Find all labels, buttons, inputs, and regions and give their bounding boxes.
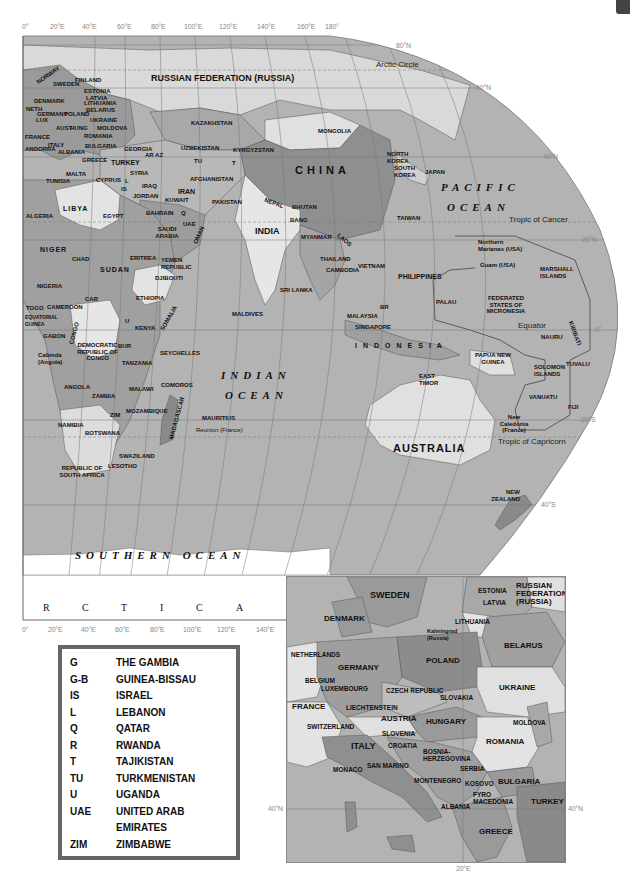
inset-country-label: NETHERLANDS	[291, 651, 340, 658]
country-label: UAE	[183, 221, 196, 228]
country-label: ALGERIA	[26, 213, 53, 220]
country-label: Reunion (France)	[196, 427, 243, 434]
legend-code: U	[70, 787, 116, 804]
legend-country-name: ZIMBABWE	[116, 837, 236, 854]
legend-code: UAE	[70, 804, 116, 837]
country-label: IS	[121, 186, 127, 193]
legend-row: UUGANDA	[70, 787, 236, 804]
country-label: NAMIBIA	[58, 422, 84, 429]
country-label: VANUATU	[529, 394, 557, 401]
country-label: EQUATORIAL GUINEA	[25, 314, 59, 327]
pacific-ocean-label: PACIFIC	[441, 181, 520, 193]
legend-code: T	[70, 754, 116, 771]
country-label: New Caledonia (France)	[497, 414, 531, 434]
country-label: ETHIOPIA	[136, 295, 164, 302]
inset-country-label: ITALY	[351, 741, 376, 751]
country-label: TUNISIA	[46, 178, 70, 185]
lon-tick-top: 0°	[22, 23, 28, 30]
inset-country-label: Kaliningrad (Russia)	[427, 628, 461, 642]
antarctica-letter: A	[236, 602, 243, 613]
inset-country-label: ROMANIA	[486, 737, 524, 746]
legend-code: TU	[70, 771, 116, 788]
inset-country-label: LIECHTENSTEIN	[346, 704, 398, 711]
country-label: VIETNAM	[358, 263, 385, 270]
legend-row: GTHE GAMBIA	[70, 655, 236, 672]
legend-country-name: TURKMENISTAN	[116, 771, 236, 788]
country-label: COMOROS	[161, 382, 193, 389]
lat-tick: 80°N	[396, 42, 411, 49]
legend-country-name: THE GAMBIA	[116, 655, 236, 672]
country-label: KAZAKHSTAN	[191, 120, 232, 127]
country-label: SWAZILAND	[119, 453, 155, 460]
southern-ocean-label: SOUTHERN OCEAN	[75, 549, 246, 561]
arctic-circle-label: Arctic Circle	[376, 60, 419, 69]
inset-lat-tick-left: 40°N	[268, 805, 283, 812]
country-label: BANG	[290, 217, 308, 224]
country-label: ERITREA	[130, 255, 156, 262]
inset-country-label: LITHUANIA	[455, 618, 490, 625]
lon-tick-top: 140°E	[257, 23, 275, 30]
legend-country-name: ISRAEL	[116, 688, 236, 705]
inset-land-ukraine	[477, 667, 565, 717]
inset-country-label: TURKEY	[531, 797, 564, 806]
inset-country-label: SWITZERLAND	[307, 723, 354, 730]
legend-row: G-BGUINEA-BISSAU	[70, 672, 236, 689]
lon-tick-bottom: 120°E	[217, 626, 235, 633]
inset-country-label: FYRO MACEDONIA	[473, 791, 513, 805]
inset-country-label: SERBIA	[460, 765, 485, 772]
country-label: NIGERIA	[37, 283, 62, 290]
legend-country-name: RWANDA	[116, 738, 236, 755]
inset-country-label: AUSTRIA	[381, 714, 417, 723]
inset-country-label: GERMANY	[338, 663, 379, 672]
legend-row: UAEUNITED ARAB EMIRATES	[70, 804, 236, 837]
country-label: TURKEY	[111, 159, 140, 167]
inset-country-label: BULGARIA	[498, 777, 540, 786]
country-label: LIBYA	[63, 205, 88, 213]
country-label: SUDAN	[100, 266, 130, 274]
lat-tick: 20°N	[582, 236, 597, 243]
country-label: NIGER	[40, 246, 67, 254]
country-label: EAST TIMOR	[419, 373, 441, 386]
inset-country-label: POLAND	[426, 656, 460, 665]
legend-code: R	[70, 738, 116, 755]
legend-row: LLEBANON	[70, 705, 236, 722]
legend-country-name: LEBANON	[116, 705, 236, 722]
country-label: ZAMBIA	[92, 393, 115, 400]
lon-tick-top: 20°E	[50, 23, 64, 30]
inset-country-label: MONTENEGRO	[414, 777, 461, 784]
country-label: ALBANIA	[58, 149, 85, 156]
country-label: ROMANIA	[84, 133, 113, 140]
inset-country-label: FRANCE	[292, 702, 325, 711]
legend-row: RRWANDA	[70, 738, 236, 755]
country-label: TUVALU	[566, 361, 590, 368]
country-label: PALAU	[436, 299, 456, 306]
inset-country-label: GREECE	[479, 827, 513, 836]
country-label: CYPRUS	[96, 177, 121, 184]
country-label: BHUTAN	[292, 204, 317, 211]
inset-country-label: LUXEMBOURG	[321, 685, 368, 692]
equator-label: Equator	[518, 321, 546, 330]
country-label: MARSHALL ISLANDS	[540, 266, 576, 279]
country-label: CHINA	[295, 167, 350, 174]
country-label: ESTONIA	[84, 88, 111, 95]
country-label: IRAQ	[142, 183, 157, 190]
legend-country-name: TAJIKISTAN	[116, 754, 236, 771]
lon-tick-top: 120°E	[219, 23, 237, 30]
country-label: SINGAPORE	[355, 324, 391, 331]
country-label: AUSTRALIA	[393, 445, 466, 452]
antarctica-letter: T	[121, 602, 127, 613]
country-label: GABON	[43, 333, 65, 340]
inset-country-label: LATVIA	[483, 599, 506, 606]
inset-country-label: DENMARK	[324, 614, 365, 623]
country-label: FINLAND	[75, 77, 101, 84]
antarctica-letter: C	[196, 602, 203, 613]
country-label: L	[125, 178, 129, 185]
country-label: SYRIA	[130, 170, 148, 177]
lon-tick-bottom: 80°E	[150, 626, 164, 633]
inset-country-label: KOSOVO	[465, 780, 494, 787]
country-label: T	[232, 160, 236, 167]
inset-lon-tick: 20°E	[456, 865, 470, 872]
country-label: MALDIVES	[232, 311, 263, 318]
inset-country-label: UKRAINE	[499, 683, 535, 692]
country-label: REPUBLIC OF SOUTH AFRICA	[57, 465, 107, 478]
